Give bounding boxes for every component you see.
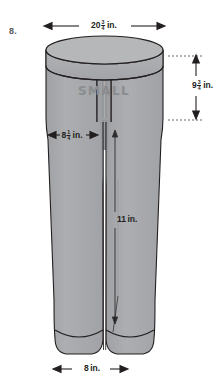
waist-whole: 20: [91, 20, 100, 30]
waist-fraction: 34: [101, 20, 105, 32]
waist-unit: in.: [107, 20, 117, 30]
leg-gap: [104, 150, 105, 352]
dimension-label-rise: 934in.: [192, 80, 213, 92]
rise-whole: 9: [192, 80, 197, 90]
cuff-whole: 8: [84, 363, 89, 373]
brand-label: SMALL: [78, 84, 130, 98]
hip-fraction: 14: [67, 130, 71, 142]
dimension-label-hip: 814in.: [61, 130, 82, 142]
rise-unit: in.: [203, 80, 213, 90]
cuff-unit: in.: [90, 363, 100, 373]
rise-fraction: 34: [197, 80, 201, 92]
pants-illustration: [0, 0, 219, 386]
figure-canvas: 8.: [0, 0, 219, 386]
waistband-opening: [46, 36, 163, 64]
hip-whole: 8: [61, 130, 66, 140]
inseam-unit: in.: [128, 214, 138, 224]
dimension-label-waist: 2034in.: [91, 20, 117, 32]
dimension-label-inseam: 11in.: [117, 215, 137, 224]
dimension-label-cuff: 8in.: [84, 364, 100, 373]
fly-panel: [97, 74, 111, 122]
inseam-whole: 11: [117, 214, 126, 224]
inseam-line-left: [103, 120, 104, 350]
hip-unit: in.: [73, 130, 83, 140]
